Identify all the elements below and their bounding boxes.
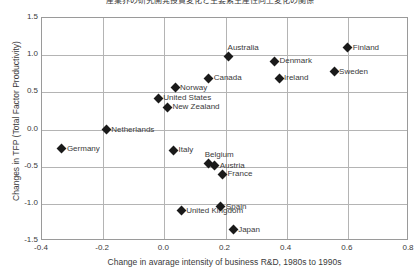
data-point-label: France xyxy=(227,170,252,178)
diamond-marker-icon xyxy=(269,56,279,66)
y-axis-tick-labels: 1.51.00.50.0-0.5-1.0-1.5 xyxy=(0,17,38,240)
diamond-marker-icon xyxy=(210,161,220,171)
x-tick-label: 0.0 xyxy=(143,243,183,252)
diamond-marker-icon xyxy=(343,43,353,53)
diamond-marker-icon xyxy=(153,93,163,103)
diamond-marker-icon xyxy=(176,206,186,216)
data-point-label: New Zealand xyxy=(172,103,219,111)
x-tick-label: 0.4 xyxy=(266,243,306,252)
scatter-chart: 産業界の研究開発投資変化と主要素生産性向上変化の関係 Changes in TF… xyxy=(0,0,420,272)
diamond-marker-icon xyxy=(204,73,214,83)
data-point-label: Netherlands xyxy=(111,126,154,134)
data-point-label: Italy xyxy=(179,146,194,154)
y-tick-label: -1.0 xyxy=(0,199,38,207)
data-point-label: Finland xyxy=(353,44,379,52)
x-tick-label: 0.8 xyxy=(388,243,420,252)
data-point-label: Japan xyxy=(238,226,260,234)
data-point-label: Belgium xyxy=(205,151,234,159)
diamond-marker-icon xyxy=(329,67,339,77)
diamond-marker-icon xyxy=(228,225,238,235)
x-tick-label: -0.2 xyxy=(82,243,122,252)
data-point-label: Spain xyxy=(226,203,246,211)
data-point-label: Germany xyxy=(67,145,100,153)
data-point-label: Norway xyxy=(180,84,207,92)
y-tick-label: 1.0 xyxy=(0,50,38,58)
x-axis-title: Change in avarage intensity of business … xyxy=(41,257,408,267)
y-tick-label: 1.5 xyxy=(0,13,38,21)
gridline-horizontal xyxy=(42,92,407,93)
plot-area: FinlandAustraliaDenmarkSwedenCanadaIrela… xyxy=(41,17,408,240)
x-tick-label: 0.6 xyxy=(327,243,367,252)
diamond-marker-icon xyxy=(170,83,180,93)
data-point-label: Canada xyxy=(214,74,242,82)
chart-title: 産業界の研究開発投資変化と主要素生産性向上変化の関係 xyxy=(0,0,420,6)
x-tick-label: -0.4 xyxy=(21,243,61,252)
data-point-label: Sweden xyxy=(339,68,368,76)
y-tick-label: -0.5 xyxy=(0,162,38,170)
gridline-vertical xyxy=(164,18,165,239)
gridline-horizontal xyxy=(42,130,407,131)
y-tick-label: 0.5 xyxy=(0,87,38,95)
data-point-label: Ireland xyxy=(284,74,308,82)
x-axis-tick-labels: -0.4-0.20.00.20.40.60.8 xyxy=(41,243,408,255)
data-point-label: Australia xyxy=(228,44,259,52)
x-tick-label: 0.2 xyxy=(205,243,245,252)
diamond-marker-icon xyxy=(274,73,284,83)
y-tick-label: 0.0 xyxy=(0,125,38,133)
diamond-marker-icon xyxy=(169,145,179,155)
data-point-label: Denmark xyxy=(279,57,311,65)
data-point-label: United States xyxy=(163,94,211,102)
gridline-vertical xyxy=(287,18,288,239)
diamond-marker-icon xyxy=(57,144,67,154)
